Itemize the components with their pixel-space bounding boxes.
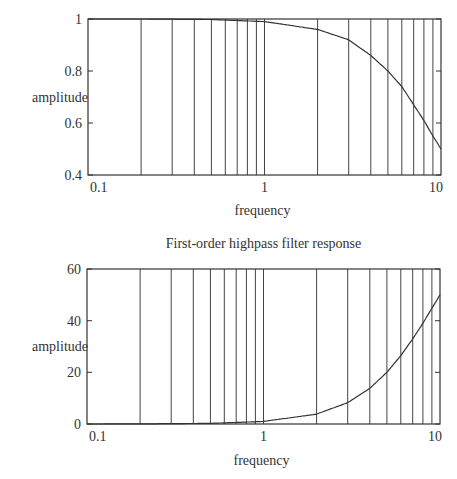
x-axis-label: frequency bbox=[234, 453, 290, 468]
y-tick-label: 0.4 bbox=[65, 168, 83, 183]
y-tick-label: 0.8 bbox=[65, 64, 83, 79]
lowpass-chart: First-order lowpass filter response 0.40… bbox=[32, 0, 443, 218]
vertical-gridlines bbox=[141, 19, 433, 175]
x-tick-label: 10 bbox=[428, 429, 442, 444]
filter-response-charts: First-order lowpass filter response 0.40… bbox=[0, 0, 457, 479]
y-axis-ticks: 0204060 bbox=[67, 262, 440, 432]
chart-title: First-order highpass filter response bbox=[166, 236, 362, 251]
y-tick-label: 1 bbox=[75, 12, 82, 27]
x-tick-label: 0.1 bbox=[89, 429, 107, 444]
y-axis-label: amplitude bbox=[32, 90, 88, 105]
y-tick-label: 60 bbox=[67, 262, 81, 277]
x-tick-label: 1 bbox=[261, 180, 268, 195]
vertical-gridlines bbox=[140, 269, 432, 424]
y-axis-ticks: 0.40.60.81 bbox=[65, 12, 442, 183]
y-tick-label: 0.6 bbox=[65, 116, 83, 131]
x-tick-label: 1 bbox=[260, 429, 267, 444]
x-axis-ticks: 0.1110 bbox=[90, 180, 443, 195]
x-axis-ticks: 0.1110 bbox=[89, 429, 442, 444]
y-axis-label: amplitude bbox=[32, 339, 88, 354]
highpass-chart: First-order highpass filter response 020… bbox=[32, 236, 442, 468]
x-tick-label: 10 bbox=[429, 180, 443, 195]
y-tick-label: 20 bbox=[67, 365, 81, 380]
y-tick-label: 0 bbox=[74, 417, 81, 432]
x-axis-label: frequency bbox=[235, 203, 291, 218]
x-tick-label: 0.1 bbox=[90, 180, 108, 195]
y-tick-label: 40 bbox=[67, 314, 81, 329]
